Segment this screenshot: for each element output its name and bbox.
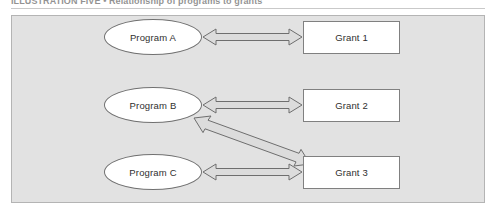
node-label: Grant 2 xyxy=(335,100,368,111)
node-program-a[interactable]: Program A xyxy=(104,19,202,55)
node-program-b[interactable]: Program B xyxy=(104,87,202,123)
figure-caption: ILLUSTRATION FIVE • Relationship of prog… xyxy=(11,0,262,6)
node-label: Program C xyxy=(129,167,176,178)
figure-page: ILLUSTRATION FIVE • Relationship of prog… xyxy=(0,0,501,219)
node-program-c[interactable]: Program C xyxy=(104,154,202,190)
caption-divider xyxy=(11,8,485,9)
node-grant-2[interactable]: Grant 2 xyxy=(303,89,400,122)
node-grant-1[interactable]: Grant 1 xyxy=(303,21,400,54)
node-label: Program A xyxy=(130,32,176,43)
figure-panel xyxy=(11,15,485,203)
node-grant-3[interactable]: Grant 3 xyxy=(303,156,400,189)
node-label: Program B xyxy=(130,100,177,111)
node-label: Grant 3 xyxy=(335,167,368,178)
node-label: Grant 1 xyxy=(335,32,368,43)
